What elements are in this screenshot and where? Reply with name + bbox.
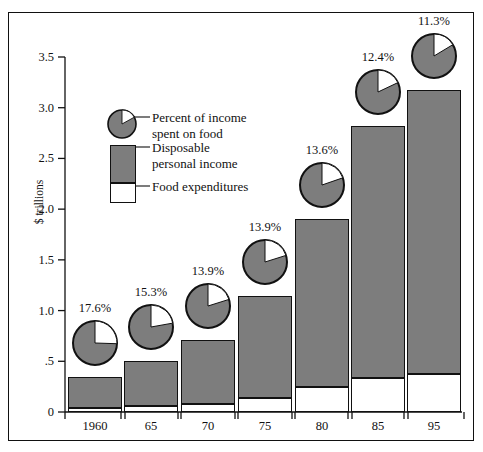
percent-label: 11.3%: [404, 15, 464, 28]
bar-segment-disposable-income[interactable]: [351, 126, 405, 378]
y-tick-label: 2.0: [22, 203, 54, 215]
legend-income-swatch: [110, 145, 136, 183]
bar-segment-disposable-income[interactable]: [238, 296, 292, 397]
y-tick-label: 2.5: [22, 152, 54, 164]
bar-segment-disposable-income[interactable]: [407, 90, 461, 374]
chart-figure: $ trillions 0.51.01.52.02.53.03.5 196065…: [0, 0, 483, 452]
bar-segment-food-expenditures[interactable]: [407, 374, 461, 412]
bar-segment-disposable-income[interactable]: [181, 340, 235, 404]
y-tick-label: 3.0: [22, 102, 54, 114]
pie-marker[interactable]: [354, 68, 402, 116]
bar-segment-food-expenditures[interactable]: [68, 408, 122, 412]
y-tick-label: 0: [22, 406, 54, 418]
percent-label: 15.3%: [121, 286, 181, 299]
percent-label: 13.9%: [235, 221, 295, 234]
pie-marker[interactable]: [71, 319, 119, 367]
percent-label: 17.6%: [65, 302, 125, 315]
pie-marker[interactable]: [298, 161, 346, 209]
percent-label: 13.9%: [178, 265, 238, 278]
percent-label: 13.6%: [292, 144, 352, 157]
x-tick-label: 95: [404, 420, 464, 433]
legend-pie-label: Percent of income spent on food: [152, 110, 247, 141]
pie-marker[interactable]: [241, 238, 289, 286]
x-tick-label: 65: [121, 420, 181, 433]
x-tick-label: 85: [348, 420, 408, 433]
bar-segment-disposable-income[interactable]: [68, 377, 122, 408]
x-tick-label: 75: [235, 420, 295, 433]
y-tick-label: .5: [22, 355, 54, 367]
x-tick-label: 70: [178, 420, 238, 433]
legend-pie-icon: [106, 108, 140, 142]
bar-segment-disposable-income[interactable]: [124, 361, 178, 406]
y-tick-label: 1.5: [22, 254, 54, 266]
legend-food-label: Food expenditures: [152, 179, 248, 195]
legend-food-swatch: [110, 183, 136, 203]
bar-segment-disposable-income[interactable]: [295, 219, 349, 386]
y-tick-label: 3.5: [22, 51, 54, 63]
pie-marker[interactable]: [410, 32, 458, 80]
x-tick-label: 80: [292, 420, 352, 433]
bar-segment-food-expenditures[interactable]: [181, 404, 235, 412]
pie-marker[interactable]: [184, 282, 232, 330]
y-tick-label: 1.0: [22, 305, 54, 317]
bar-segment-food-expenditures[interactable]: [238, 398, 292, 412]
bar-segment-food-expenditures[interactable]: [295, 387, 349, 412]
legend-income-label: Disposable personal income: [152, 140, 238, 171]
percent-label: 12.4%: [348, 51, 408, 64]
pie-marker[interactable]: [127, 303, 175, 351]
bar-segment-food-expenditures[interactable]: [124, 406, 178, 412]
bar-segment-food-expenditures[interactable]: [351, 378, 405, 412]
x-tick-label: 1960: [65, 420, 125, 433]
